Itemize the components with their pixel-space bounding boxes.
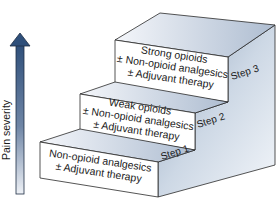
- pain-ladder-diagram: Pain severity Strong opioids ± Non-opioi…: [0, 0, 278, 202]
- axis-label: Pain severity: [0, 99, 12, 160]
- pain-severity-arrow: [10, 33, 30, 194]
- arrow-head-icon: [10, 33, 30, 46]
